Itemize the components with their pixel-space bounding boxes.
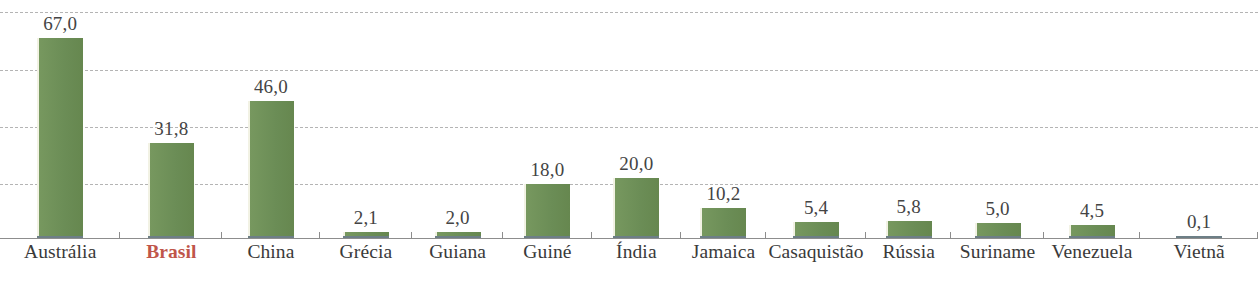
- bar-rect[interactable]: [700, 208, 746, 238]
- bar-chart: 67,031,846,02,12,018,020,010,25,45,85,04…: [0, 0, 1258, 292]
- category-cell-venezuela[interactable]: Venezuela: [1044, 241, 1140, 263]
- bar-rect[interactable]: [886, 221, 932, 238]
- bar-value-label: 0,1: [1187, 211, 1211, 233]
- category-label: Jamaica: [692, 241, 756, 263]
- category-cell-jamaica[interactable]: Jamaica: [681, 241, 766, 263]
- category-cell-casaquist-o[interactable]: Casaquistão: [766, 241, 866, 263]
- bar-guin-[interactable]: 18,0: [503, 0, 592, 239]
- bar-rect[interactable]: [37, 38, 83, 238]
- bar-value-label: 31,8: [154, 118, 188, 140]
- bar-value-label: 5,0: [985, 198, 1009, 220]
- bar-casaquist-o[interactable]: 5,4: [766, 0, 866, 239]
- bar-value-label: 5,4: [804, 197, 828, 219]
- category-label: Brasil: [146, 241, 196, 263]
- category-label: Índia: [616, 241, 657, 263]
- bar--ndia[interactable]: 20,0: [592, 0, 681, 239]
- category-cell-suriname[interactable]: Suriname: [951, 241, 1044, 263]
- bar-rect[interactable]: [613, 178, 659, 238]
- bar-value-label: 67,0: [43, 13, 77, 35]
- category-label: Casaquistão: [768, 241, 863, 263]
- bar-austr-lia[interactable]: 67,0: [0, 0, 120, 239]
- bar-gr-cia[interactable]: 2,1: [320, 0, 413, 239]
- bar-brasil[interactable]: 31,8: [120, 0, 222, 239]
- x-axis-category-labels: AustráliaBrasilChinaGréciaGuianaGuinéÍnd…: [0, 241, 1258, 281]
- plot-area: 67,031,846,02,12,018,020,010,25,45,85,04…: [0, 0, 1258, 239]
- bar-china[interactable]: 46,0: [222, 0, 319, 239]
- bar-rect[interactable]: [793, 222, 839, 238]
- category-label: Austrália: [24, 241, 96, 263]
- category-label: Suriname: [960, 241, 1036, 263]
- bar-value-label: 46,0: [254, 76, 288, 98]
- bar-value-label: 2,1: [354, 207, 378, 229]
- bar-value-label: 2,0: [445, 207, 469, 229]
- category-cell-r-ssia[interactable]: Rússia: [866, 241, 951, 263]
- bar-series: 67,031,846,02,12,018,020,010,25,45,85,04…: [0, 0, 1258, 239]
- category-label: Vietnã: [1173, 241, 1224, 263]
- category-label: Venezuela: [1052, 241, 1133, 263]
- bar-rect[interactable]: [524, 184, 570, 238]
- category-cell-guin-[interactable]: Guiné: [503, 241, 592, 263]
- bar-rect[interactable]: [343, 232, 389, 238]
- bar-rect[interactable]: [1069, 225, 1115, 238]
- category-label: Guiné: [523, 241, 571, 263]
- category-cell-gr-cia[interactable]: Grécia: [320, 241, 413, 263]
- category-label: Grécia: [340, 241, 393, 263]
- category-cell-vietn-[interactable]: Vietnã: [1140, 241, 1258, 263]
- bar-value-label: 20,0: [619, 153, 653, 175]
- category-cell-brasil[interactable]: Brasil: [120, 241, 222, 263]
- bar-vietn-[interactable]: 0,1: [1140, 0, 1258, 239]
- bar-rect[interactable]: [435, 232, 481, 238]
- bar-rect[interactable]: [975, 223, 1021, 238]
- bar-value-label: 4,5: [1080, 200, 1104, 222]
- bar-jamaica[interactable]: 10,2: [681, 0, 766, 239]
- bar-suriname[interactable]: 5,0: [951, 0, 1044, 239]
- category-label: China: [247, 241, 294, 263]
- bar-venezuela[interactable]: 4,5: [1044, 0, 1140, 239]
- category-cell--ndia[interactable]: Índia: [592, 241, 681, 263]
- bar-value-label: 5,8: [897, 196, 921, 218]
- bar-guiana[interactable]: 2,0: [412, 0, 503, 239]
- bar-rect[interactable]: [148, 143, 194, 238]
- bar-rect[interactable]: [248, 101, 294, 238]
- category-label: Rússia: [882, 241, 935, 263]
- category-label: Guiana: [429, 241, 486, 263]
- category-cell-china[interactable]: China: [222, 241, 319, 263]
- category-cell-guiana[interactable]: Guiana: [412, 241, 503, 263]
- category-cell-austr-lia[interactable]: Austrália: [0, 241, 120, 263]
- bar-value-label: 18,0: [530, 159, 564, 181]
- bar-value-label: 10,2: [706, 183, 740, 205]
- bar-r-ssia[interactable]: 5,8: [866, 0, 951, 239]
- bar-rect[interactable]: [1176, 236, 1222, 238]
